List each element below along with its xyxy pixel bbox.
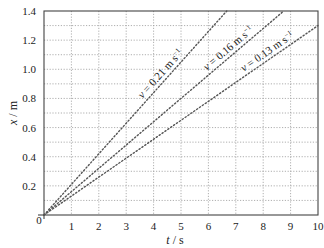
x-tick-label: 3 <box>123 220 129 232</box>
y-tick-label: 0.8 <box>22 92 36 104</box>
x-tick-label: 7 <box>233 220 239 232</box>
y-tick-label: 0.4 <box>22 151 36 163</box>
x-tick-label: 9 <box>288 220 294 232</box>
x-tick-label: 10 <box>313 220 324 232</box>
y-tick-label: 0.6 <box>22 122 36 134</box>
x-tick-label: 6 <box>206 220 212 232</box>
x-axis-label: t / s <box>166 233 184 247</box>
y-tick-label: 1.0 <box>22 63 36 75</box>
y-tick-label: 1.2 <box>22 34 36 46</box>
x-tick-label: 4 <box>151 220 157 232</box>
x-tick-label: 2 <box>96 220 102 232</box>
y-tick-label: 1.4 <box>22 5 36 17</box>
x-tick-label: 5 <box>178 220 184 232</box>
x-tick-label: 8 <box>260 220 266 232</box>
x-tick-label: 1 <box>69 220 75 232</box>
series-label-0: v = 0.21 m s−1 <box>135 46 185 100</box>
y-axis-label: x / m <box>6 100 20 126</box>
origin-label: 0 <box>36 214 42 226</box>
position-time-chart: 0.20.40.60.81.01.21.4123456789100t / sx … <box>0 0 324 248</box>
series-line-1 <box>44 11 284 215</box>
y-tick-label: 0.2 <box>22 180 36 192</box>
